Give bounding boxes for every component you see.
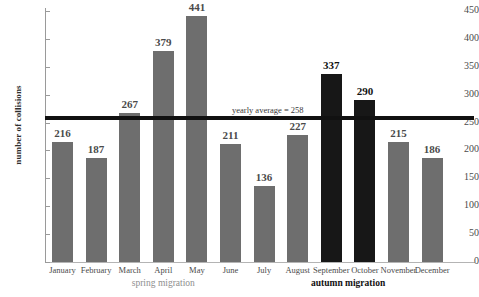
y-tick-mark <box>45 178 50 179</box>
bar-value-september: 337 <box>309 59 353 71</box>
y-tick-mark <box>45 150 50 151</box>
y-tick-label: 350 <box>441 60 479 71</box>
x-tick-label-december: December <box>408 265 456 275</box>
bar-value-june: 211 <box>209 129 253 141</box>
y-tick-mark <box>45 234 50 235</box>
bar-value-july: 136 <box>242 171 286 183</box>
y-tick-mark <box>45 262 50 263</box>
bar-january <box>52 142 73 262</box>
yearly-average-label: yearly average = 258 <box>232 105 304 115</box>
bar-december <box>422 158 443 262</box>
yearly-average-line <box>45 116 474 120</box>
y-tick-label: 450 <box>441 4 479 15</box>
bar-november <box>388 142 409 262</box>
spring-migration-label: spring migration <box>103 278 223 288</box>
bar-may <box>186 16 207 262</box>
y-tick-mark <box>45 39 50 40</box>
y-tick-mark <box>45 67 50 68</box>
bar-value-november: 215 <box>377 127 421 139</box>
bar-value-march: 267 <box>108 98 152 110</box>
bar-value-august: 227 <box>276 120 320 132</box>
x-axis-line <box>45 262 475 263</box>
y-tick-mark <box>45 206 50 207</box>
y-tick-label: 50 <box>441 227 479 238</box>
bar-value-february: 187 <box>74 143 118 155</box>
bar-march <box>119 113 140 262</box>
bar-value-april: 379 <box>141 36 185 48</box>
y-tick-mark <box>45 95 50 96</box>
bar-value-december: 186 <box>410 143 454 155</box>
bar-april <box>153 51 174 262</box>
bar-value-january: 216 <box>41 127 85 139</box>
y-tick-label: 100 <box>441 199 479 210</box>
y-tick-label: 300 <box>441 88 479 99</box>
bar-july <box>254 186 275 262</box>
collisions-bar-chart: number of collisions 0501001502002503003… <box>0 0 479 297</box>
bar-august <box>287 135 308 262</box>
y-tick-mark <box>45 11 50 12</box>
bar-september <box>321 74 342 262</box>
y-tick-mark <box>45 123 50 124</box>
y-tick-label: 150 <box>441 171 479 182</box>
y-axis-title: number of collisions <box>13 55 23 195</box>
bar-value-october: 290 <box>343 85 387 97</box>
bar-june <box>220 144 241 262</box>
autumn-migration-label: autumn migration <box>288 278 408 288</box>
y-tick-label: 400 <box>441 32 479 43</box>
bar-october <box>354 100 375 262</box>
bar-february <box>86 158 107 262</box>
bar-value-may: 441 <box>175 1 219 13</box>
